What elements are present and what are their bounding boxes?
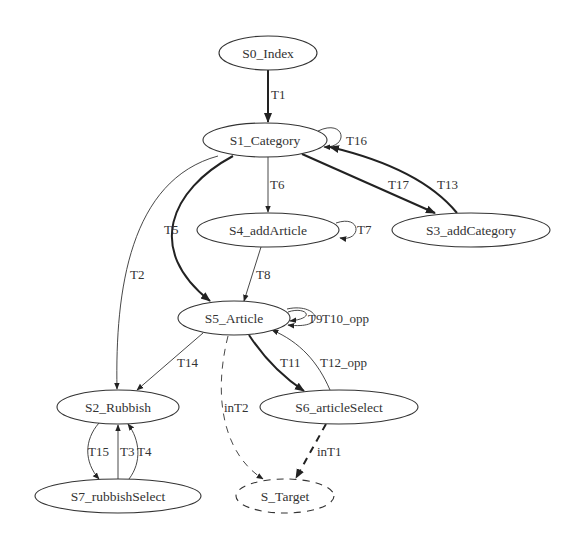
- state-diagram: T1 T16 T6 T17 T13 T5 T2 T7 T8: [0, 0, 574, 544]
- node-s2-rubbish[interactable]: S2_Rubbish: [57, 390, 179, 424]
- node-label: S0_Index: [242, 46, 294, 61]
- node-s6-articleselect[interactable]: S6_articleSelect: [260, 390, 418, 424]
- node-label: S2_Rubbish: [85, 400, 151, 415]
- edge-int1: inT1: [296, 424, 342, 478]
- node-s0-index[interactable]: S0_Index: [219, 36, 317, 70]
- edge-t7: T7: [336, 221, 372, 238]
- arrow-t9: [288, 310, 306, 321]
- edge-label-int1: inT1: [317, 444, 342, 459]
- arrow-t17: [302, 154, 435, 213]
- edge-label-t12-opp: T12_opp: [320, 355, 367, 370]
- edge-t17: T17: [302, 154, 435, 213]
- edge-label-t17: T17: [388, 177, 409, 192]
- edge-t1: T1: [268, 70, 285, 122]
- node-s4-addarticle[interactable]: S4_addArticle: [197, 213, 339, 247]
- edge-t15: T15: [88, 423, 109, 479]
- node-s7-rubbishselect[interactable]: S7_rubbishSelect: [35, 479, 201, 513]
- node-s1-category[interactable]: S1_Category: [203, 123, 327, 157]
- edge-label-t14: T14: [177, 355, 198, 370]
- edge-t2: T2: [117, 156, 218, 389]
- edge-label-t1: T1: [271, 87, 285, 102]
- edge-label-t13: T13: [437, 177, 458, 192]
- edge-int2: inT2: [221, 336, 263, 479]
- edge-label-t11: T11: [280, 355, 300, 370]
- edge-t9: [288, 310, 306, 321]
- node-label: S4_addArticle: [229, 223, 307, 238]
- node-label: S_Target: [261, 489, 310, 504]
- edge-label-t6: T6: [270, 177, 285, 192]
- edge-label-t7: T7: [357, 222, 372, 237]
- edge-label-t15: T15: [88, 444, 109, 459]
- edge-label-t9: T9: [308, 311, 322, 326]
- edge-t8: T8: [244, 247, 270, 301]
- edge-label-t3: T3: [120, 444, 134, 459]
- edge-label-int2: inT2: [224, 400, 249, 415]
- node-s3-addcategory[interactable]: S3_addCategory: [392, 213, 550, 247]
- node-label: S6_articleSelect: [295, 400, 383, 415]
- node-label: S7_rubbishSelect: [71, 489, 166, 504]
- edge-t3: T3: [118, 425, 134, 479]
- edge-t14: T14: [137, 333, 203, 390]
- edge-label-t5: T5: [164, 222, 178, 237]
- edge-label-t2: T2: [130, 267, 144, 282]
- node-label: S3_addCategory: [426, 223, 516, 238]
- node-label: S1_Category: [230, 133, 301, 148]
- node-s-target[interactable]: S_Target: [236, 479, 334, 513]
- edge-t11: T11: [249, 335, 304, 391]
- node-label: S5_Article: [205, 311, 264, 326]
- edge-label-t16: T16: [346, 133, 367, 148]
- edge-label-t10-opp: T10_opp: [322, 311, 369, 326]
- edge-label-t4: T4: [137, 444, 152, 459]
- edge-t6: T6: [268, 157, 285, 212]
- node-s5-article[interactable]: S5_Article: [178, 301, 290, 335]
- edge-label-t8: T8: [256, 267, 270, 282]
